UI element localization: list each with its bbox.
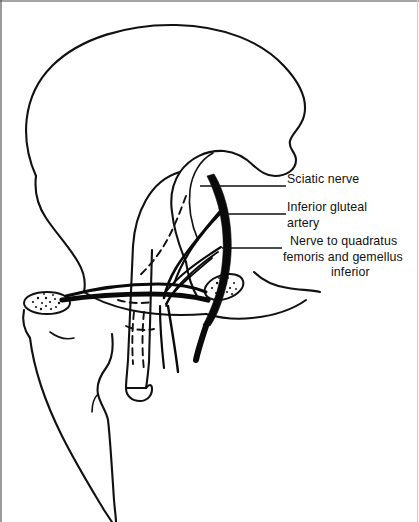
femoral-shaft-lateral-border	[126, 246, 133, 388]
greater-trochanter-outline	[171, 151, 254, 262]
femoral-shaft-medial-border	[146, 250, 152, 388]
anatomical-figure: Sciatic nerve Inferior gluteal artery Ne…	[0, 0, 419, 522]
label-inferior-gluteal-artery: Inferior gluteal artery	[287, 200, 367, 231]
femoral-neck-outline	[133, 172, 180, 246]
ilium-anterior-border	[35, 176, 84, 292]
label-nerve-to-quadratus-femoris: Nerve to quadratus femoris and gemellus …	[283, 234, 403, 281]
ilium-iliac-crest-outline	[26, 25, 305, 176]
label-nerve-to-quadratus-femoris-line2: femoris and gemellus	[283, 250, 403, 266]
descending-vessel-hidden	[143, 312, 145, 370]
label-sciatic-nerve-line1: Sciatic nerve	[287, 172, 359, 188]
descending-vessel-hidden-2	[132, 312, 134, 364]
thigh-medial-contour	[97, 334, 116, 522]
label-sciatic-nerve: Sciatic nerve	[287, 172, 359, 188]
pubic-symphysis-cut-surface	[24, 292, 70, 314]
gluteal-fold-arc	[50, 332, 74, 339]
femoral-shaft-hidden-contour-upper	[118, 300, 152, 303]
medial-contour-notch	[92, 394, 98, 412]
greater-trochanter-inner-arc	[189, 153, 213, 240]
sciatic-nerve-distal-segment	[196, 326, 206, 360]
inferior-pelvic-contour	[23, 310, 30, 338]
label-inferior-gluteal-artery-line2: artery	[287, 216, 367, 232]
thigh-lateral-contour	[30, 338, 112, 522]
label-nerve-to-quadratus-femoris-line3: inferior	[283, 265, 403, 281]
label-nerve-to-quadratus-femoris-line1: Nerve to quadratus	[283, 234, 403, 250]
femur-cut-end	[126, 385, 152, 401]
label-inferior-gluteal-artery-line1: Inferior gluteal	[287, 200, 367, 216]
transverse-vessel-trunk	[62, 294, 208, 300]
